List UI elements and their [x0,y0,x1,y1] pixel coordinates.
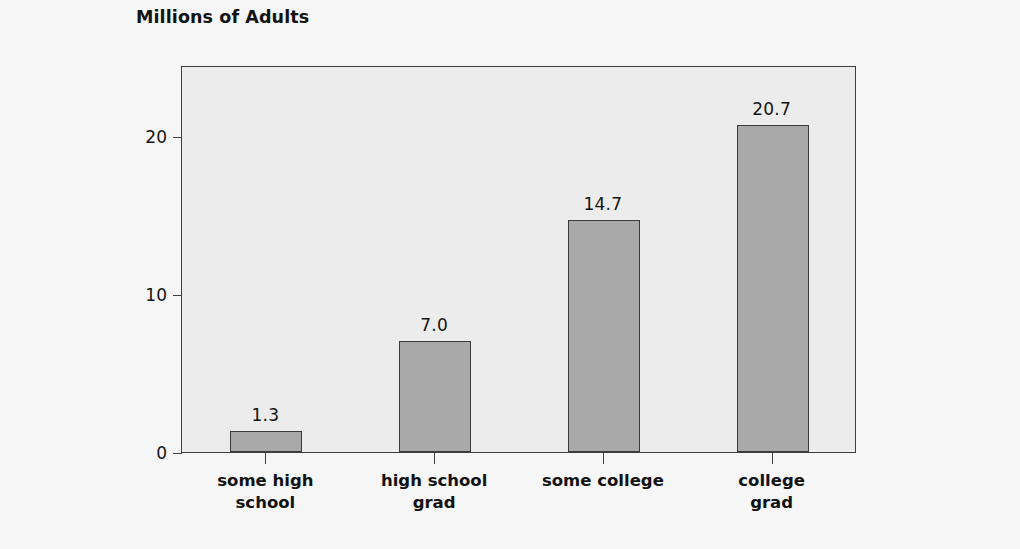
x-axis-tick [434,453,435,464]
bar-value-label: 7.0 [374,315,494,335]
chart-title: Millions of Adults [136,7,309,27]
y-axis-tick-label: 20 [145,127,167,147]
x-axis-tick [772,453,773,464]
x-axis-tick [603,453,604,464]
bar [737,125,809,452]
bar-value-label: 1.3 [205,405,325,425]
x-axis-category-label: some college [508,470,698,492]
bar [568,220,640,452]
bar-value-label: 14.7 [543,194,663,214]
plot-inner [182,67,855,452]
x-axis-category-label: college grad [677,470,867,514]
bar [230,431,302,452]
y-axis-tick-label: 0 [156,443,167,463]
x-axis-category-label: high school grad [339,470,529,514]
plot-area [181,66,856,453]
y-axis-tick-label: 10 [145,285,167,305]
bar-value-label: 20.7 [712,99,832,119]
y-axis-tick [173,453,182,454]
bar [399,341,471,452]
x-axis-tick [265,453,266,464]
y-axis-tick-labels: 01020 [120,66,167,453]
x-axis-category-label: some high school [170,470,360,514]
